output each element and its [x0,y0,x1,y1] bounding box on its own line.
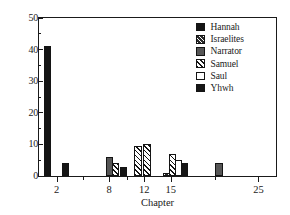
legend-label: Narrator [211,46,242,56]
legend-label: Saul [211,71,228,81]
x-tick-label: 15 [156,184,186,195]
legend-swatch-icon [196,23,205,32]
legend-item: Samuel [196,58,275,70]
x-tick-minor [215,177,216,180]
y-tick-minor [38,33,41,34]
y-tick-major [38,144,43,145]
bar [62,163,69,176]
x-tick-major [57,177,58,182]
y-tick-label: 50 [16,13,38,23]
y-tick-minor [38,128,41,129]
legend-label: Yhwh [211,83,234,93]
legend-item: Narrator [196,45,275,57]
y-tick-label: 20 [16,108,38,118]
bar [181,163,188,176]
y-tick-minor [38,160,41,161]
legend-item: Hannah [196,21,275,33]
bar [143,144,150,176]
x-tick-major [144,177,145,182]
legend-swatch-icon [196,59,205,68]
bar [112,163,119,176]
y-tick-major [38,49,43,50]
y-tick-minor [38,65,41,66]
x-tick-label: 8 [94,184,124,195]
bar [215,163,222,176]
y-tick-minor [38,97,41,98]
bar [134,146,141,176]
legend-label: Israelites [211,34,244,44]
legend-swatch-icon [196,47,205,56]
y-tick-major [38,81,43,82]
x-tick-label: 25 [243,184,273,195]
y-tick-label: 40 [16,45,38,55]
x-tick-minor [83,177,84,180]
legend-swatch-icon [196,84,205,93]
bar [120,167,127,176]
x-tick-major [258,177,259,182]
legend: HannahIsraelitesNarratorSamuelSaulYhwh [192,17,277,97]
legend-label: Hannah [211,22,240,32]
x-tick-major [171,177,172,182]
bar [44,46,51,176]
legend-swatch-icon [196,72,205,81]
x-axis-title: Chapter [38,197,277,208]
y-tick-major [38,18,43,19]
legend-item: Saul [196,70,275,82]
y-tick-label: 0 [16,171,38,181]
x-tick-major [109,177,110,182]
y-tick-major [38,112,43,113]
bar-chart-figure: 01020304050 Chapter HannahIsraelitesNarr… [0,0,290,215]
legend-label: Samuel [211,59,239,69]
legend-swatch-icon [196,35,205,44]
y-tick-label: 10 [16,139,38,149]
y-axis: 01020304050 [8,0,38,215]
legend-item: Israelites [196,33,275,45]
x-tick-label: 2 [42,184,72,195]
y-tick-major [38,176,43,177]
x-tick-minor [127,177,128,180]
legend-item: Yhwh [196,82,275,94]
y-tick-label: 30 [16,76,38,86]
